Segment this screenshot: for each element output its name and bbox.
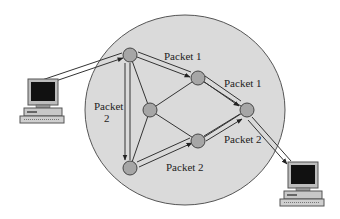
label-packet2-left-1: Packet	[94, 100, 123, 112]
destination-computer-icon	[280, 162, 324, 206]
label-packet2-bottom: Packet 2	[166, 161, 204, 173]
node-f	[123, 161, 137, 175]
node-e	[191, 134, 205, 148]
label-packet1-top: Packet 1	[164, 50, 202, 62]
node-d	[240, 103, 254, 117]
label-packet2-right: Packet 2	[224, 133, 262, 145]
packet-switching-diagram: Packet 1 Packet 1 Packet 2 Packet 2 Pack…	[0, 0, 340, 219]
node-b	[191, 71, 205, 85]
node-c	[143, 103, 157, 117]
label-packet2-left-2: 2	[104, 112, 110, 124]
label-packet1-right: Packet 1	[224, 77, 262, 89]
node-a	[123, 48, 137, 62]
source-computer-icon	[20, 79, 64, 123]
